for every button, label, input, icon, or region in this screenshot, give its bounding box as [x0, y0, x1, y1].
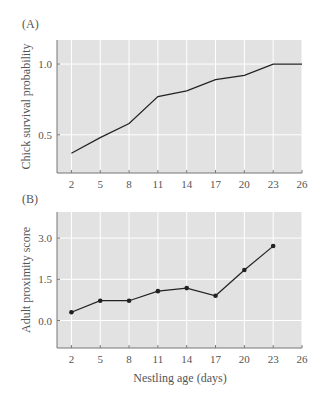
x-tick-label: 17 [210, 353, 222, 365]
x-tick-label: 20 [239, 353, 251, 365]
x-tick-label: 8 [126, 178, 132, 190]
x-tick-label: 2 [69, 178, 75, 190]
data-point-marker [69, 310, 74, 315]
panel-b-label: (B) [22, 192, 38, 206]
data-point-marker [98, 298, 103, 303]
x-tick-label: 23 [268, 353, 280, 365]
panel-a-x-tick-labels: 258111417202326 [69, 178, 308, 190]
data-point-marker [127, 298, 132, 303]
panel-a: (A) 258111417202326 1.00.5 Chick surviva… [19, 17, 308, 190]
y-tick-label: 3.0 [38, 232, 52, 244]
figure: (A) 258111417202326 1.00.5 Chick surviva… [0, 0, 325, 401]
data-point-marker [184, 286, 189, 291]
x-tick-label: 26 [297, 178, 309, 190]
data-point-marker [156, 289, 161, 294]
x-tick-label: 23 [268, 178, 280, 190]
x-tick-label: 11 [153, 353, 164, 365]
y-tick-label: 0.5 [38, 129, 52, 141]
x-tick-label: 17 [210, 178, 222, 190]
x-tick-label: 14 [181, 178, 193, 190]
x-tick-label: 5 [97, 353, 103, 365]
panel-a-label: (A) [22, 17, 39, 31]
panel-b-plot-area [57, 212, 302, 348]
panel-a-plot-area [57, 40, 302, 173]
y-tick-label: 0.0 [38, 315, 52, 327]
panel-b-y-axis-title: Adult proximity score [19, 227, 33, 333]
data-point-marker [271, 244, 276, 249]
x-tick-label: 20 [239, 178, 251, 190]
panel-a-y-axis-title: Chick survival probability [19, 44, 33, 170]
x-tick-label: 2 [69, 353, 75, 365]
panel-b-y-tick-labels: 3.01.50.0 [38, 232, 52, 326]
panel-a-y-tick-labels: 1.00.5 [38, 58, 52, 141]
x-tick-label: 26 [297, 353, 309, 365]
x-tick-label: 14 [181, 353, 193, 365]
data-point-marker [242, 268, 247, 273]
y-tick-label: 1.5 [38, 273, 52, 285]
x-tick-label: 5 [97, 178, 103, 190]
panel-b-x-axis-title: Nestling age (days) [133, 371, 226, 385]
x-tick-label: 11 [153, 178, 164, 190]
y-tick-label: 1.0 [38, 58, 52, 70]
panel-b-x-tick-labels: 258111417202326 [69, 353, 308, 365]
x-tick-label: 8 [126, 353, 132, 365]
panel-b: (B) 258111417202326 3.01.50.0 Adult prox… [19, 192, 308, 385]
data-point-marker [213, 293, 218, 298]
